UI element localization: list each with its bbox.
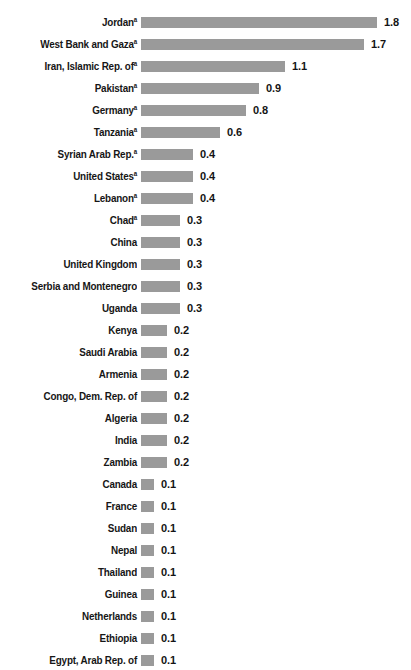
value-label: 0.3 bbox=[187, 281, 202, 292]
chart-row: Jordana1.8 bbox=[0, 11, 411, 33]
footnote-marker: a bbox=[134, 125, 137, 132]
footnote-marker: a bbox=[134, 59, 137, 66]
value-bar bbox=[141, 435, 167, 446]
chart-row: Pakistana0.9 bbox=[0, 77, 411, 99]
chart-row: Chada0.3 bbox=[0, 209, 411, 231]
category-label: United Statesa bbox=[8, 171, 137, 182]
chart-row: Syrian Arab Rep.a0.4 bbox=[0, 143, 411, 165]
value-label: 0.4 bbox=[200, 149, 215, 160]
value-label: 0.2 bbox=[174, 391, 189, 402]
value-bar bbox=[141, 259, 180, 270]
footnote-marker: a bbox=[134, 169, 137, 176]
value-bar bbox=[141, 171, 193, 182]
category-label: Algeria bbox=[8, 413, 137, 424]
chart-row: Armenia0.2 bbox=[0, 363, 411, 385]
value-label: 0.2 bbox=[174, 435, 189, 446]
value-label: 0.4 bbox=[200, 171, 215, 182]
chart-row: Canada0.1 bbox=[0, 473, 411, 495]
category-label: Syrian Arab Rep.a bbox=[8, 149, 137, 160]
value-label: 0.1 bbox=[161, 633, 176, 644]
category-label: Armenia bbox=[8, 369, 137, 380]
value-bar bbox=[141, 325, 167, 336]
category-label: Jordana bbox=[8, 17, 137, 28]
chart-row: France0.1 bbox=[0, 495, 411, 517]
value-label: 0.2 bbox=[174, 325, 189, 336]
value-bar bbox=[141, 369, 167, 380]
value-label: 0.2 bbox=[174, 347, 189, 358]
chart-row: Thailand0.1 bbox=[0, 561, 411, 583]
category-label: Pakistana bbox=[8, 83, 137, 94]
value-label: 0.2 bbox=[174, 369, 189, 380]
chart-row: Nepal0.1 bbox=[0, 539, 411, 561]
value-label: 0.3 bbox=[187, 215, 202, 226]
category-label: Kenya bbox=[8, 325, 137, 336]
value-bar bbox=[141, 83, 259, 94]
chart-row: Sudan0.1 bbox=[0, 517, 411, 539]
category-label: Serbia and Montenegro bbox=[8, 281, 137, 292]
chart-row: India0.2 bbox=[0, 429, 411, 451]
value-label: 1.1 bbox=[292, 61, 307, 72]
footnote-marker: a bbox=[134, 147, 137, 154]
value-bar bbox=[141, 589, 154, 600]
value-bar bbox=[141, 479, 154, 490]
category-label: Saudi Arabia bbox=[8, 347, 137, 358]
value-bar bbox=[141, 567, 154, 578]
value-bar bbox=[141, 105, 246, 116]
category-label: United Kingdom bbox=[8, 259, 137, 270]
value-label: 0.4 bbox=[200, 193, 215, 204]
chart-row: Kenya0.2 bbox=[0, 319, 411, 341]
chart-row: Iran, Islamic Rep. ofa1.1 bbox=[0, 55, 411, 77]
value-bar bbox=[141, 39, 364, 50]
chart-row: Uganda0.3 bbox=[0, 297, 411, 319]
value-bar bbox=[141, 457, 167, 468]
value-bar bbox=[141, 281, 180, 292]
chart-row: United Statesa0.4 bbox=[0, 165, 411, 187]
footnote-marker: a bbox=[134, 15, 137, 22]
value-label: 0.9 bbox=[266, 83, 281, 94]
value-label: 0.6 bbox=[227, 127, 242, 138]
chart-row: Algeria0.2 bbox=[0, 407, 411, 429]
category-label: Iran, Islamic Rep. ofa bbox=[8, 61, 137, 72]
category-label: Netherlands bbox=[8, 611, 137, 622]
value-bar bbox=[141, 61, 285, 72]
value-label: 0.3 bbox=[187, 259, 202, 270]
category-label: West Bank and Gazaa bbox=[8, 39, 137, 50]
category-label: Tanzaniaa bbox=[8, 127, 137, 138]
value-label: 0.1 bbox=[161, 655, 176, 666]
value-bar bbox=[141, 633, 154, 644]
category-label: Nepal bbox=[8, 545, 137, 556]
category-label: Lebanona bbox=[8, 193, 137, 204]
value-bar bbox=[141, 149, 193, 160]
value-label: 0.3 bbox=[187, 237, 202, 248]
value-bar bbox=[141, 215, 180, 226]
category-label: Sudan bbox=[8, 523, 137, 534]
chart-row: Guinea0.1 bbox=[0, 583, 411, 605]
chart-row: Egypt, Arab Rep. of0.1 bbox=[0, 649, 411, 670]
chart-row: Saudi Arabia0.2 bbox=[0, 341, 411, 363]
chart-row: United Kingdom0.3 bbox=[0, 253, 411, 275]
category-label: Chada bbox=[8, 215, 137, 226]
chart-row: West Bank and Gazaa1.7 bbox=[0, 33, 411, 55]
category-label: Congo, Dem. Rep. of bbox=[8, 391, 137, 402]
footnote-marker: a bbox=[134, 37, 137, 44]
value-label: 1.8 bbox=[384, 17, 399, 28]
category-label: Thailand bbox=[8, 567, 137, 578]
value-label: 0.1 bbox=[161, 479, 176, 490]
category-label: Canada bbox=[8, 479, 137, 490]
footnote-marker: a bbox=[134, 81, 137, 88]
value-label: 0.2 bbox=[174, 457, 189, 468]
value-bar bbox=[141, 501, 154, 512]
value-label: 0.3 bbox=[187, 303, 202, 314]
value-label: 0.2 bbox=[174, 413, 189, 424]
category-label: France bbox=[8, 501, 137, 512]
footnote-marker: a bbox=[134, 213, 137, 220]
chart-row: Congo, Dem. Rep. of0.2 bbox=[0, 385, 411, 407]
chart-row: Germanya0.8 bbox=[0, 99, 411, 121]
value-bar bbox=[141, 545, 154, 556]
value-label: 0.8 bbox=[253, 105, 268, 116]
category-label: Guinea bbox=[8, 589, 137, 600]
value-bar bbox=[141, 193, 193, 204]
value-bar bbox=[141, 237, 180, 248]
chart-row: Serbia and Montenegro0.3 bbox=[0, 275, 411, 297]
